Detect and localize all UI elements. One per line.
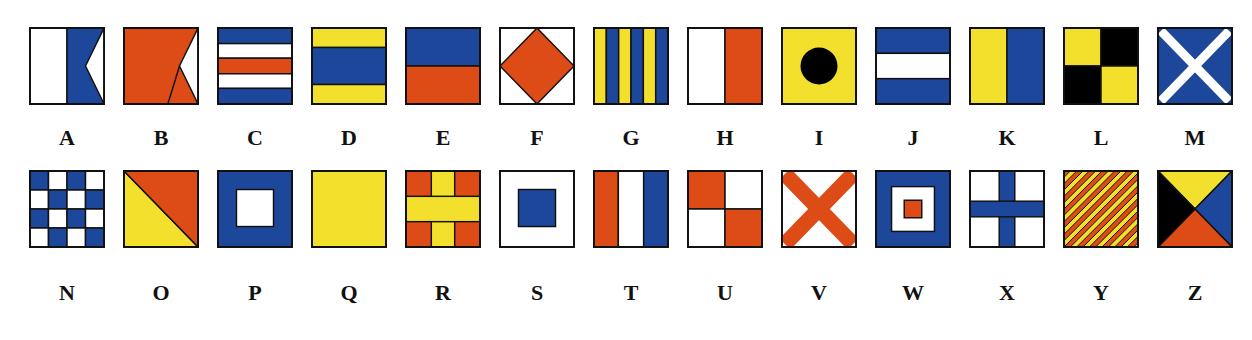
flag-d-icon xyxy=(311,27,387,105)
flag-i-icon xyxy=(781,27,857,105)
flag-label: H xyxy=(687,125,763,151)
flag-n-icon xyxy=(29,170,105,248)
flag-label: B xyxy=(123,125,199,151)
flag-label: N xyxy=(29,280,105,306)
flag-label: E xyxy=(405,125,481,151)
flag-o-icon xyxy=(123,170,199,248)
flag-label: V xyxy=(781,280,857,306)
flag-label: Z xyxy=(1157,280,1233,306)
flag-label: F xyxy=(499,125,575,151)
flag-y-icon xyxy=(1063,170,1139,248)
flag-label: P xyxy=(217,280,293,306)
flag-label: I xyxy=(781,125,857,151)
flag-label: K xyxy=(969,125,1045,151)
flag-h-icon xyxy=(687,27,763,105)
flag-label: Q xyxy=(311,280,387,306)
flag-j-icon xyxy=(875,27,951,105)
flag-f-icon xyxy=(499,27,575,105)
flag-label: S xyxy=(499,280,575,306)
flag-l-icon xyxy=(1063,27,1139,105)
flag-c-icon xyxy=(217,27,293,105)
flag-v-icon xyxy=(781,170,857,248)
flag-s-icon xyxy=(499,170,575,248)
flag-label: D xyxy=(311,125,387,151)
flag-r-icon xyxy=(405,170,481,248)
flag-a-icon xyxy=(29,27,105,105)
flag-label: L xyxy=(1063,125,1139,151)
flag-t-icon xyxy=(593,170,669,248)
flag-w-icon xyxy=(875,170,951,248)
flag-label: G xyxy=(593,125,669,151)
flag-label: W xyxy=(875,280,951,306)
flag-label: T xyxy=(593,280,669,306)
flag-m-icon xyxy=(1157,27,1233,105)
flag-label: J xyxy=(875,125,951,151)
flag-x-icon xyxy=(969,170,1045,248)
flag-label: Y xyxy=(1063,280,1139,306)
flag-z-icon xyxy=(1157,170,1233,248)
flag-label: R xyxy=(405,280,481,306)
flag-p-icon xyxy=(217,170,293,248)
flag-q-icon xyxy=(311,170,387,248)
flag-u-icon xyxy=(687,170,763,248)
flag-label: U xyxy=(687,280,763,306)
flag-label: X xyxy=(969,280,1045,306)
flag-label: M xyxy=(1157,125,1233,151)
flag-label: O xyxy=(123,280,199,306)
flag-b-icon xyxy=(123,27,199,105)
flag-e-icon xyxy=(405,27,481,105)
flag-label: C xyxy=(217,125,293,151)
flag-g-icon xyxy=(593,27,669,105)
flag-label: A xyxy=(29,125,105,151)
flag-k-icon xyxy=(969,27,1045,105)
